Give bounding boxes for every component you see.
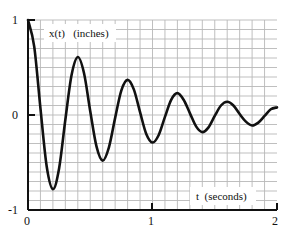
x-tick-label-0: 0 bbox=[24, 214, 30, 228]
y-tick-label-1: 1 bbox=[12, 13, 18, 27]
y-tick-label-0: 0 bbox=[12, 108, 18, 122]
damped-oscillation-chart: x(t) (inches) t (seconds) 1 0 -1 0 1 2 bbox=[0, 0, 289, 238]
y-tick-label-neg1: -1 bbox=[8, 203, 18, 217]
x-axis-label: t (seconds) bbox=[196, 190, 247, 203]
x-tick-label-2: 2 bbox=[272, 214, 278, 228]
y-axis-label: x(t) (inches) bbox=[49, 27, 109, 40]
x-tick-label-1: 1 bbox=[148, 214, 154, 228]
